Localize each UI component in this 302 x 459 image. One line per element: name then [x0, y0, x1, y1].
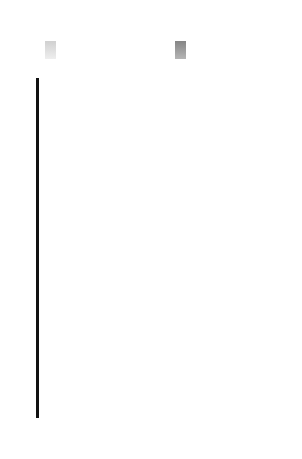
chart-figure: [0, 0, 302, 459]
legend-swatch-without: [175, 41, 186, 59]
y-axis-line: [36, 78, 39, 418]
legend-swatch-with: [45, 41, 56, 59]
plot-area: [37, 80, 295, 416]
